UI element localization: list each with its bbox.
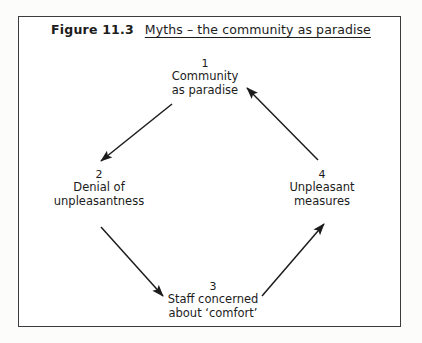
node-2-line1: Denial of bbox=[39, 181, 159, 195]
node-4-line1: Unpleasant bbox=[262, 181, 382, 195]
figure-title: Figure 11.3Myths – the community as para… bbox=[0, 22, 422, 38]
node-1-line1: Community bbox=[145, 70, 265, 84]
node-3-line2: about ‘comfort’ bbox=[153, 307, 273, 321]
node-3-staff-concerned-about-comfort: 3 Staff concerned about ‘comfort’ bbox=[153, 280, 273, 320]
node-1-community-as-paradise: 1 Community as paradise bbox=[145, 57, 265, 97]
figure-number-label: Figure 11.3 bbox=[51, 22, 134, 37]
node-2-line2: unpleasantness bbox=[39, 195, 159, 209]
node-4-unpleasant-measures: 4 Unpleasant measures bbox=[262, 168, 382, 208]
figure-caption-label: Myths – the community as paradise bbox=[145, 22, 371, 37]
node-1-line2: as paradise bbox=[145, 84, 265, 98]
node-2-denial-of-unpleasantness: 2 Denial of unpleasantness bbox=[39, 168, 159, 208]
node-3-line1: Staff concerned bbox=[153, 293, 273, 307]
figure-root: Figure 11.3Myths – the community as para… bbox=[0, 0, 422, 343]
node-4-line2: measures bbox=[262, 195, 382, 209]
